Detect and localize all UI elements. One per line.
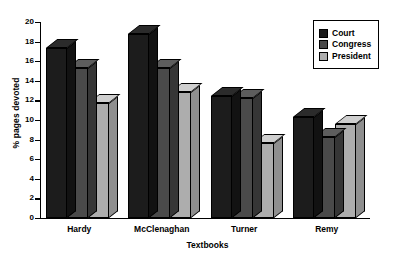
bar-group — [128, 22, 191, 218]
legend-swatch-court — [319, 29, 328, 38]
y-tick-label: 10 — [25, 116, 34, 124]
bar-side — [335, 130, 344, 218]
y-tick-label: 0 — [30, 214, 34, 222]
bar-side — [253, 91, 262, 218]
legend-item-court: Court — [319, 29, 371, 38]
bar-chart: % pages devoted Textbooks 02468101214161… — [0, 0, 415, 264]
y-tick — [35, 159, 40, 160]
bar-face — [211, 96, 232, 218]
y-axis-line — [40, 22, 41, 218]
legend-label-congress: Congress — [332, 40, 371, 49]
bar-side — [274, 136, 283, 218]
y-tick — [35, 218, 40, 219]
y-tick — [35, 100, 40, 101]
bar-side — [109, 96, 118, 218]
y-tick — [35, 22, 40, 23]
bar-side — [149, 27, 158, 218]
bar-side — [191, 85, 200, 218]
y-tick-label: 8 — [30, 136, 34, 144]
x-tick-label: Turner — [231, 224, 257, 234]
legend-swatch-president — [319, 52, 328, 61]
bar-side — [88, 61, 97, 218]
bar-face — [128, 34, 149, 218]
x-axis-line — [40, 218, 370, 219]
y-tick — [35, 140, 40, 141]
y-tick — [35, 81, 40, 82]
y-tick-label: 12 — [25, 96, 34, 104]
legend-item-congress: Congress — [319, 40, 371, 49]
legend-swatch-congress — [319, 40, 328, 49]
y-axis-title: % pages devoted — [11, 53, 21, 173]
x-tick-label: Remy — [315, 224, 338, 234]
bar-group — [46, 22, 109, 218]
legend-item-president: President — [319, 52, 371, 61]
y-tick — [35, 198, 40, 199]
bar-court-turner — [211, 96, 232, 218]
y-tick — [35, 179, 40, 180]
legend-label-court: Court — [332, 29, 355, 38]
x-tick-label: McClenaghan — [134, 224, 189, 234]
bar-side — [232, 89, 241, 218]
legend: Court Congress President — [313, 20, 379, 69]
bar-side — [170, 61, 179, 218]
bar-side — [356, 117, 365, 218]
bar-face — [46, 48, 67, 218]
legend-label-president: President — [332, 52, 371, 61]
bar-court-mcclenaghan — [128, 34, 149, 218]
bar-group — [211, 22, 274, 218]
bar-side — [314, 110, 323, 218]
x-tick-label: Hardy — [67, 224, 91, 234]
x-axis-title: Textbooks — [0, 240, 415, 250]
y-tick-label: 2 — [30, 194, 34, 202]
y-tick — [35, 61, 40, 62]
bar-court-remy — [293, 117, 314, 218]
y-tick — [35, 42, 40, 43]
bar-side — [67, 41, 76, 218]
bar-face — [293, 117, 314, 218]
y-tick-label: 20 — [25, 18, 34, 26]
bar-court-hardy — [46, 48, 67, 218]
y-tick-label: 18 — [25, 38, 34, 46]
y-tick-label: 4 — [30, 175, 34, 183]
y-tick-label: 6 — [30, 155, 34, 163]
y-tick-label: 16 — [25, 57, 34, 65]
y-tick — [35, 120, 40, 121]
y-tick-label: 14 — [25, 77, 34, 85]
